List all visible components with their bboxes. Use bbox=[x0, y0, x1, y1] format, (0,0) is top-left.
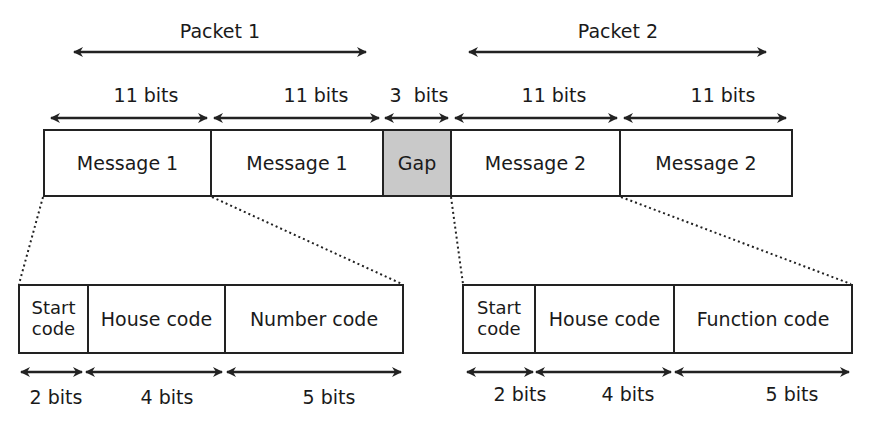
packet-1-label: Packet 1 bbox=[180, 22, 260, 41]
width-label: 2 bits bbox=[494, 385, 547, 404]
start-code-line2: code bbox=[32, 319, 75, 340]
width-label: 5 bits bbox=[766, 385, 819, 404]
width-label: 11 bits bbox=[522, 86, 587, 105]
start-code-line1: Start bbox=[477, 298, 521, 319]
diagram-lines bbox=[0, 0, 877, 423]
width-label: 2 bits bbox=[30, 388, 83, 407]
width-label: 11 bits bbox=[114, 86, 179, 105]
zoom-dotted-line bbox=[451, 197, 463, 284]
width-label: 11 bits bbox=[691, 86, 756, 105]
message-1-segment: Message 1 bbox=[210, 129, 384, 197]
message-2-segment: Message 2 bbox=[450, 129, 621, 197]
width-label: 3 bits bbox=[390, 86, 449, 105]
message-1-segment: Message 1 bbox=[43, 129, 212, 197]
start-code-line2: code bbox=[477, 319, 520, 340]
message-2-segment: Message 2 bbox=[619, 129, 793, 197]
function-code-segment: Function code bbox=[673, 284, 853, 354]
width-label: 4 bits bbox=[141, 388, 194, 407]
width-label: 5 bits bbox=[303, 388, 356, 407]
start-code-segment: Start code bbox=[18, 284, 89, 354]
number-code-segment: Number code bbox=[224, 284, 404, 354]
start-code-line1: Start bbox=[32, 298, 76, 319]
packet-2-label: Packet 2 bbox=[578, 22, 658, 41]
zoom-dotted-line bbox=[621, 197, 851, 284]
gap-segment: Gap bbox=[382, 129, 452, 197]
width-label: 4 bits bbox=[602, 385, 655, 404]
house-code-segment: House code bbox=[87, 284, 226, 354]
width-label: 11 bits bbox=[284, 86, 349, 105]
zoom-dotted-line bbox=[19, 197, 43, 284]
start-code-segment: Start code bbox=[462, 284, 536, 354]
zoom-dotted-line bbox=[212, 197, 402, 284]
house-code-segment: House code bbox=[534, 284, 675, 354]
